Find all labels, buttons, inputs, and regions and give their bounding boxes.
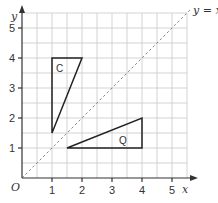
y-tick-2: 2 (9, 112, 15, 124)
origin-label: O (11, 181, 20, 194)
mirror-line-y-equals-x (22, 10, 190, 178)
shape-q-label: Q (119, 135, 127, 146)
x-tick-5: 5 (169, 184, 175, 196)
x-axis-arrow-icon (190, 175, 198, 181)
y-tick-3: 3 (9, 82, 15, 94)
x-tick-4: 4 (139, 184, 145, 196)
x-axis-label: x (182, 183, 189, 196)
y-tick-5: 5 (9, 22, 15, 34)
x-tick-3: 3 (109, 184, 115, 196)
y-tick-1: 1 (9, 142, 15, 154)
shape-c-label: C (56, 63, 63, 74)
mirror-line-label: y = x (192, 4, 218, 17)
coordinate-diagram: y = x 1 2 3 4 5 1 2 3 4 5 O x y C Q (0, 0, 218, 203)
x-tick-1: 1 (49, 184, 55, 196)
y-axis-arrow-icon (19, 5, 25, 13)
x-tick-2: 2 (79, 184, 85, 196)
y-axis-label: y (10, 10, 18, 23)
y-tick-4: 4 (9, 52, 15, 64)
